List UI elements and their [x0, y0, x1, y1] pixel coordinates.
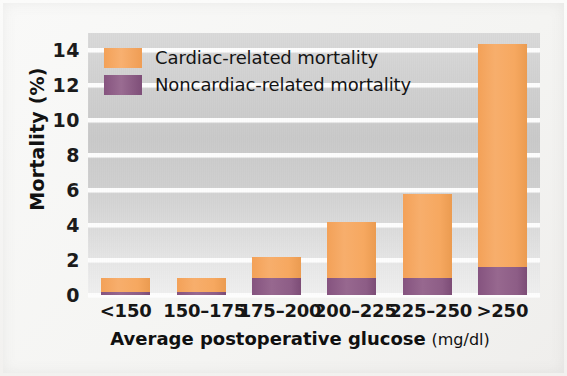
x-tick-label: 225–250: [389, 300, 464, 321]
y-tick-label-4: 4: [40, 214, 80, 236]
bar-group: [177, 278, 226, 295]
x-axis-title: Average postoperative glucose (mg/dl): [60, 328, 540, 349]
y-tick-label-10: 10: [40, 109, 80, 131]
x-axis-title-unit: (mg/dl): [432, 330, 490, 349]
bar-segment-cardiac: [252, 257, 301, 278]
legend-swatch-noncardiac-icon: [104, 75, 142, 95]
bar-segment-noncardiac: [327, 278, 376, 295]
bar-segment-cardiac: [101, 278, 150, 293]
y-tick-label-0: 0: [40, 284, 80, 306]
bar-segment-noncardiac: [403, 278, 452, 295]
x-tick-label: 175–200: [239, 300, 314, 321]
legend-swatch-cardiac-icon: [104, 48, 142, 68]
legend-label-noncardiac: Noncardiac-related mortality: [155, 74, 411, 95]
legend: Cardiac-related mortality Noncardiac-rel…: [104, 44, 404, 98]
y-tick-label-14: 14: [40, 39, 80, 61]
x-tick-label: 200–225: [314, 300, 389, 321]
x-tick-label: <150: [88, 300, 163, 321]
bar-segment-cardiac: [478, 44, 527, 268]
legend-item-noncardiac: Noncardiac-related mortality: [104, 71, 404, 98]
legend-label-cardiac: Cardiac-related mortality: [155, 47, 378, 68]
y-tick-label-8: 8: [40, 144, 80, 166]
y-axis-ticks: 02468101214: [28, 33, 80, 295]
figure-container: Mortality (%) 02468101214 Cardiac-relate…: [0, 0, 567, 376]
bar-segment-cardiac: [177, 278, 226, 293]
bar-segment-cardiac: [327, 222, 376, 278]
bar-segment-cardiac: [403, 194, 452, 278]
bar-group: [478, 44, 527, 296]
bar-group: [252, 257, 301, 295]
bar-group: [403, 194, 452, 295]
legend-item-cardiac: Cardiac-related mortality: [104, 44, 404, 71]
x-axis-title-main: Average postoperative glucose: [110, 328, 425, 349]
y-tick-label-6: 6: [40, 179, 80, 201]
bar-segment-noncardiac: [177, 292, 226, 295]
x-tick-label: 150–175: [163, 300, 238, 321]
bar-segment-noncardiac: [101, 292, 150, 295]
bar-segment-noncardiac: [252, 278, 301, 295]
x-tick-label: >250: [465, 300, 540, 321]
y-tick-label-2: 2: [40, 249, 80, 271]
y-tick-label-12: 12: [40, 74, 80, 96]
bar-group: [327, 222, 376, 295]
bar-group: [101, 278, 150, 295]
bar-segment-noncardiac: [478, 267, 527, 295]
x-axis-ticks: <150150–175175–200200–225225–250>250: [88, 300, 540, 326]
